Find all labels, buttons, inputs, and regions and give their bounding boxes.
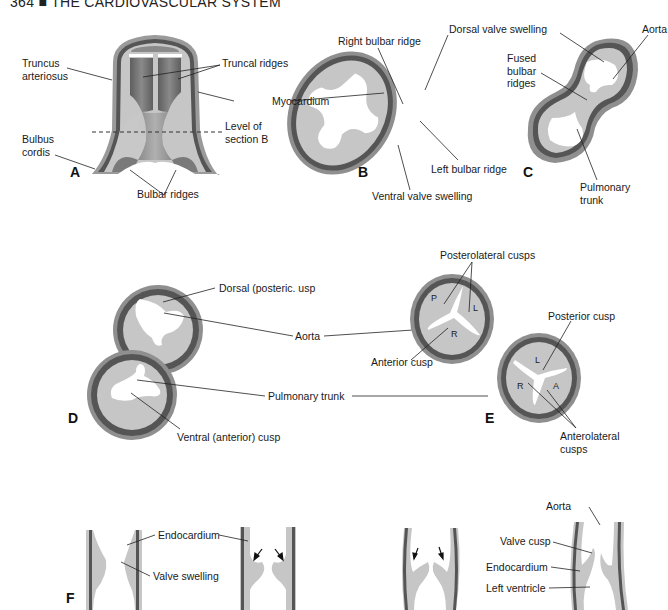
panel-letter-e: E: [485, 410, 494, 426]
label-anterior-cusp: Anterior cusp: [371, 356, 433, 369]
label-myocardium: Myocardium: [272, 95, 329, 108]
panel-d-drawing: [87, 285, 203, 440]
label-line: arteriosus: [22, 70, 68, 83]
panel-letter-c: C: [523, 164, 533, 180]
label-line: Truncus: [22, 57, 68, 70]
label-line: Anterolateral: [560, 430, 620, 443]
label-valve-swelling: Valve swelling: [153, 570, 219, 583]
label-line: bulbar: [507, 65, 536, 78]
cusp-label-l-lower: L: [535, 355, 540, 365]
label-dorsal-posterior-cusp: Dorsal (posteric. usp: [219, 282, 315, 295]
panel-letter-b: B: [358, 164, 368, 180]
panel-b-drawing: [266, 32, 418, 194]
label-ventral-anterior-cusp: Ventral (anterior) cusp: [177, 431, 280, 444]
label-line: section B: [225, 133, 268, 146]
label-posterolateral-cusps: Posterolateral cusps: [440, 249, 535, 262]
figure-canvas: [0, 0, 668, 610]
label-line: cusps: [560, 443, 620, 456]
label-fused-bulbar-ridges: Fused bulbar ridges: [507, 52, 536, 90]
cusp-label-r: R: [451, 329, 458, 339]
label-line: cordis: [22, 146, 54, 159]
label-line: ridges: [507, 77, 536, 90]
label-pulmonary-trunk-d: Pulmonary trunk: [268, 390, 344, 403]
label-right-bulbar-ridge: Right bulbar ridge: [338, 35, 421, 48]
label-pulmonary-trunk-c: Pulmonary trunk: [580, 181, 630, 206]
label-ventral-valve-swelling: Ventral valve swelling: [372, 190, 472, 203]
label-line: Bulbus: [22, 133, 54, 146]
label-left-ventricle: Left ventricle: [486, 582, 546, 595]
label-posterior-cusp: Posterior cusp: [548, 310, 615, 323]
label-endocardium-f1: Endocardium: [158, 529, 220, 542]
cusp-label-l: L: [473, 303, 478, 313]
label-aorta-c: Aorta: [642, 23, 667, 36]
label-aorta-f: Aorta: [546, 500, 571, 513]
cusp-label-p: P: [431, 293, 437, 303]
label-anterolateral-cusps: Anterolateral cusps: [560, 430, 620, 455]
panel-letter-a: A: [70, 164, 80, 180]
label-line: Fused: [507, 52, 536, 65]
label-level-of-section-b: Level of section B: [225, 120, 268, 145]
panel-letter-d: D: [68, 410, 78, 426]
cusp-label-r-lower: R: [517, 381, 524, 391]
panel-letter-f: F: [66, 590, 75, 606]
label-line: Level of: [225, 120, 268, 133]
cusp-label-a: A: [553, 381, 559, 391]
panel-a-drawing: [92, 35, 225, 183]
flow-arrows: [254, 547, 443, 560]
label-truncal-ridges: Truncal ridges: [222, 57, 288, 70]
label-left-bulbar-ridge: Left bulbar ridge: [431, 163, 507, 176]
label-aorta-d: Aorta: [295, 330, 320, 343]
label-bulbus-cordis: Bulbus cordis: [22, 133, 54, 158]
label-valve-cusp: Valve cusp: [500, 535, 551, 548]
label-endocardium-f2: Endocardium: [486, 561, 548, 574]
label-truncus-arteriosus: Truncus arteriosus: [22, 57, 68, 82]
label-bulbar-ridges: Bulbar ridges: [137, 188, 199, 201]
label-line: Pulmonary: [580, 181, 630, 194]
label-line: trunk: [580, 194, 630, 207]
label-dorsal-valve-swelling: Dorsal valve swelling: [449, 23, 547, 36]
